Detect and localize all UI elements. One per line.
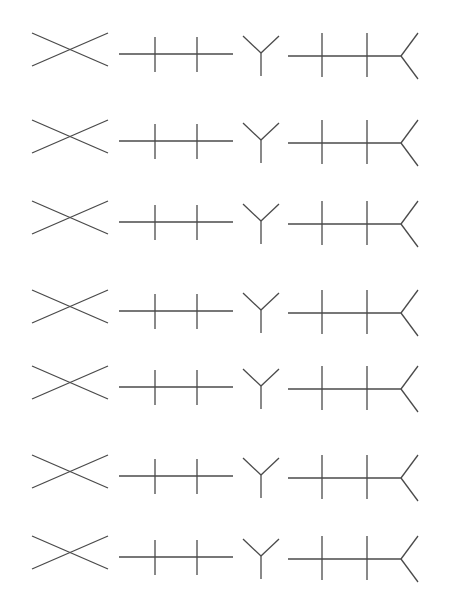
background xyxy=(0,0,450,608)
illusion-figure xyxy=(0,0,450,608)
